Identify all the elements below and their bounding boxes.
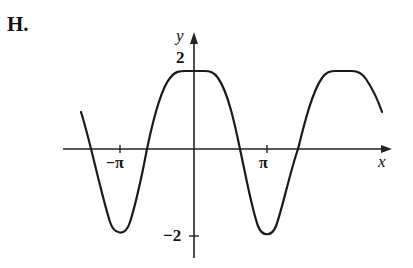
x-axis-arrow-icon — [381, 145, 392, 153]
function-curve — [81, 71, 382, 234]
graph-plot — [0, 0, 413, 268]
y-axis-arrow-icon — [190, 32, 198, 44]
